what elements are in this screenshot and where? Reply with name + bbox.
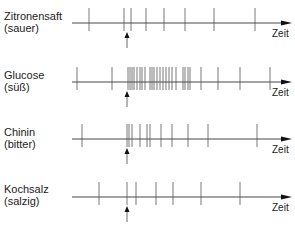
axis-arrowhead-icon [281, 195, 292, 200]
stimulus-arrow-icon [125, 206, 130, 212]
stimulus-arrow-icon [125, 32, 130, 38]
stimulus-arrow-icon [125, 148, 130, 154]
axis-arrowhead-icon [281, 137, 292, 142]
stimulus-arrow-icon [125, 91, 130, 97]
axis-arrowhead-icon [281, 80, 292, 85]
axis-arrowhead-icon [281, 21, 292, 26]
spike-train-plot [0, 0, 295, 228]
